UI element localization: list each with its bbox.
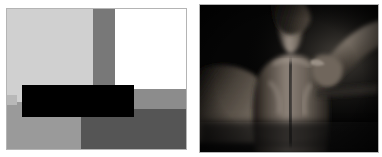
block-edge-strip [7, 95, 17, 105]
photo-vignette [200, 5, 378, 152]
left-panel-abstract-blocks [6, 8, 187, 150]
right-panel-photograph [199, 4, 379, 153]
block-redaction-bar [22, 85, 134, 117]
image-pair-canvas [0, 0, 382, 157]
photograph-back-and-shoulders [200, 5, 378, 152]
block-white-top-right [115, 9, 186, 89]
